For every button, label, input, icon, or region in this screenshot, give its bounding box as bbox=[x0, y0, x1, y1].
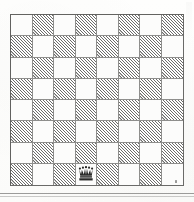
board-square[interactable] bbox=[97, 58, 119, 79]
board-square[interactable] bbox=[33, 36, 55, 57]
board-square[interactable] bbox=[162, 121, 184, 142]
board-square[interactable] bbox=[119, 164, 141, 185]
board-square[interactable] bbox=[33, 121, 55, 142]
board-square[interactable] bbox=[162, 58, 184, 79]
board-square[interactable] bbox=[33, 164, 55, 185]
black-queen-icon[interactable] bbox=[77, 166, 94, 183]
board-square[interactable] bbox=[11, 121, 33, 142]
board-square-with-piece[interactable] bbox=[76, 164, 98, 185]
board-square[interactable] bbox=[119, 36, 141, 57]
board-square[interactable] bbox=[33, 143, 55, 164]
board-square[interactable] bbox=[97, 143, 119, 164]
board-square[interactable] bbox=[97, 100, 119, 121]
board-square[interactable] bbox=[97, 79, 119, 100]
board-square[interactable] bbox=[76, 79, 98, 100]
board-square[interactable] bbox=[11, 143, 33, 164]
board-square[interactable] bbox=[162, 143, 184, 164]
board-square[interactable] bbox=[54, 58, 76, 79]
board-square[interactable] bbox=[33, 79, 55, 100]
board-square[interactable] bbox=[97, 164, 119, 185]
chessboard-grid bbox=[11, 15, 183, 185]
board-square[interactable] bbox=[140, 100, 162, 121]
board-square[interactable] bbox=[54, 36, 76, 57]
board-square[interactable] bbox=[140, 15, 162, 36]
board-square[interactable] bbox=[162, 15, 184, 36]
board-square[interactable] bbox=[119, 15, 141, 36]
board-square[interactable] bbox=[140, 121, 162, 142]
board-square[interactable] bbox=[33, 100, 55, 121]
board-square[interactable] bbox=[162, 36, 184, 57]
board-square[interactable] bbox=[54, 143, 76, 164]
board-square[interactable] bbox=[76, 58, 98, 79]
board-square[interactable] bbox=[54, 121, 76, 142]
board-square[interactable] bbox=[119, 121, 141, 142]
board-square[interactable] bbox=[97, 15, 119, 36]
board-square[interactable] bbox=[140, 58, 162, 79]
scan-smudge bbox=[186, 2, 192, 42]
horizontal-rule-secondary bbox=[0, 196, 194, 197]
board-square[interactable] bbox=[11, 100, 33, 121]
board-square[interactable] bbox=[11, 36, 33, 57]
board-square[interactable] bbox=[162, 79, 184, 100]
board-square[interactable] bbox=[76, 100, 98, 121]
horizontal-rule bbox=[0, 193, 194, 194]
board-square[interactable] bbox=[140, 143, 162, 164]
board-square[interactable] bbox=[140, 79, 162, 100]
board-square[interactable] bbox=[76, 36, 98, 57]
board-square[interactable] bbox=[119, 100, 141, 121]
board-square[interactable] bbox=[11, 164, 33, 185]
board-square[interactable] bbox=[140, 164, 162, 185]
board-square[interactable] bbox=[76, 15, 98, 36]
board-square[interactable] bbox=[97, 121, 119, 142]
board-square[interactable] bbox=[76, 121, 98, 142]
figure-page bbox=[0, 0, 194, 202]
board-square[interactable] bbox=[97, 36, 119, 57]
board-square[interactable] bbox=[119, 58, 141, 79]
board-square[interactable] bbox=[162, 164, 184, 185]
chessboard bbox=[10, 14, 184, 186]
board-square[interactable] bbox=[54, 100, 76, 121]
board-square[interactable] bbox=[76, 143, 98, 164]
board-square[interactable] bbox=[33, 15, 55, 36]
board-square[interactable] bbox=[33, 58, 55, 79]
board-square[interactable] bbox=[11, 58, 33, 79]
board-square[interactable] bbox=[54, 164, 76, 185]
ink-speck-mark bbox=[175, 180, 177, 183]
board-square[interactable] bbox=[162, 100, 184, 121]
board-square[interactable] bbox=[119, 79, 141, 100]
board-square[interactable] bbox=[11, 15, 33, 36]
board-square[interactable] bbox=[54, 15, 76, 36]
board-square[interactable] bbox=[11, 79, 33, 100]
board-square[interactable] bbox=[119, 143, 141, 164]
board-square[interactable] bbox=[140, 36, 162, 57]
board-square[interactable] bbox=[54, 79, 76, 100]
